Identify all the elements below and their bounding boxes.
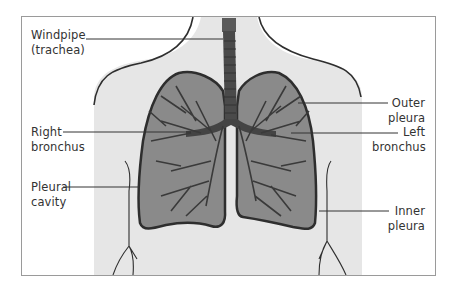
label-windpipe-line1: Windpipe	[31, 28, 86, 43]
larynx	[222, 18, 236, 32]
label-right-bronchus: Right bronchus	[31, 125, 85, 155]
label-left-bronchus: Left bronchus	[372, 125, 425, 155]
label-windpipe: Windpipe (trachea)	[31, 28, 86, 58]
label-outer-pleura-line2: pleura	[388, 111, 425, 126]
label-left-bronchus-line2: bronchus	[372, 140, 425, 155]
label-left-bronchus-line1: Left	[372, 125, 425, 140]
label-right-bronchus-line2: bronchus	[31, 140, 85, 155]
label-inner-pleura-line1: Inner	[385, 204, 425, 219]
label-outer-pleura-line1: Outer	[388, 96, 425, 111]
label-outer-pleura: Outer pleura	[388, 96, 425, 126]
label-windpipe-line2: (trachea)	[31, 43, 86, 58]
label-inner-pleura-line2: pleura	[385, 219, 425, 234]
label-inner-pleura: Inner pleura	[385, 204, 425, 234]
trachea	[223, 31, 237, 121]
label-right-bronchus-line1: Right	[31, 125, 85, 140]
label-pleural-cavity: Pleural cavity	[31, 180, 71, 210]
label-pleural-cavity-line1: Pleural	[31, 180, 71, 195]
label-pleural-cavity-line2: cavity	[31, 195, 71, 210]
